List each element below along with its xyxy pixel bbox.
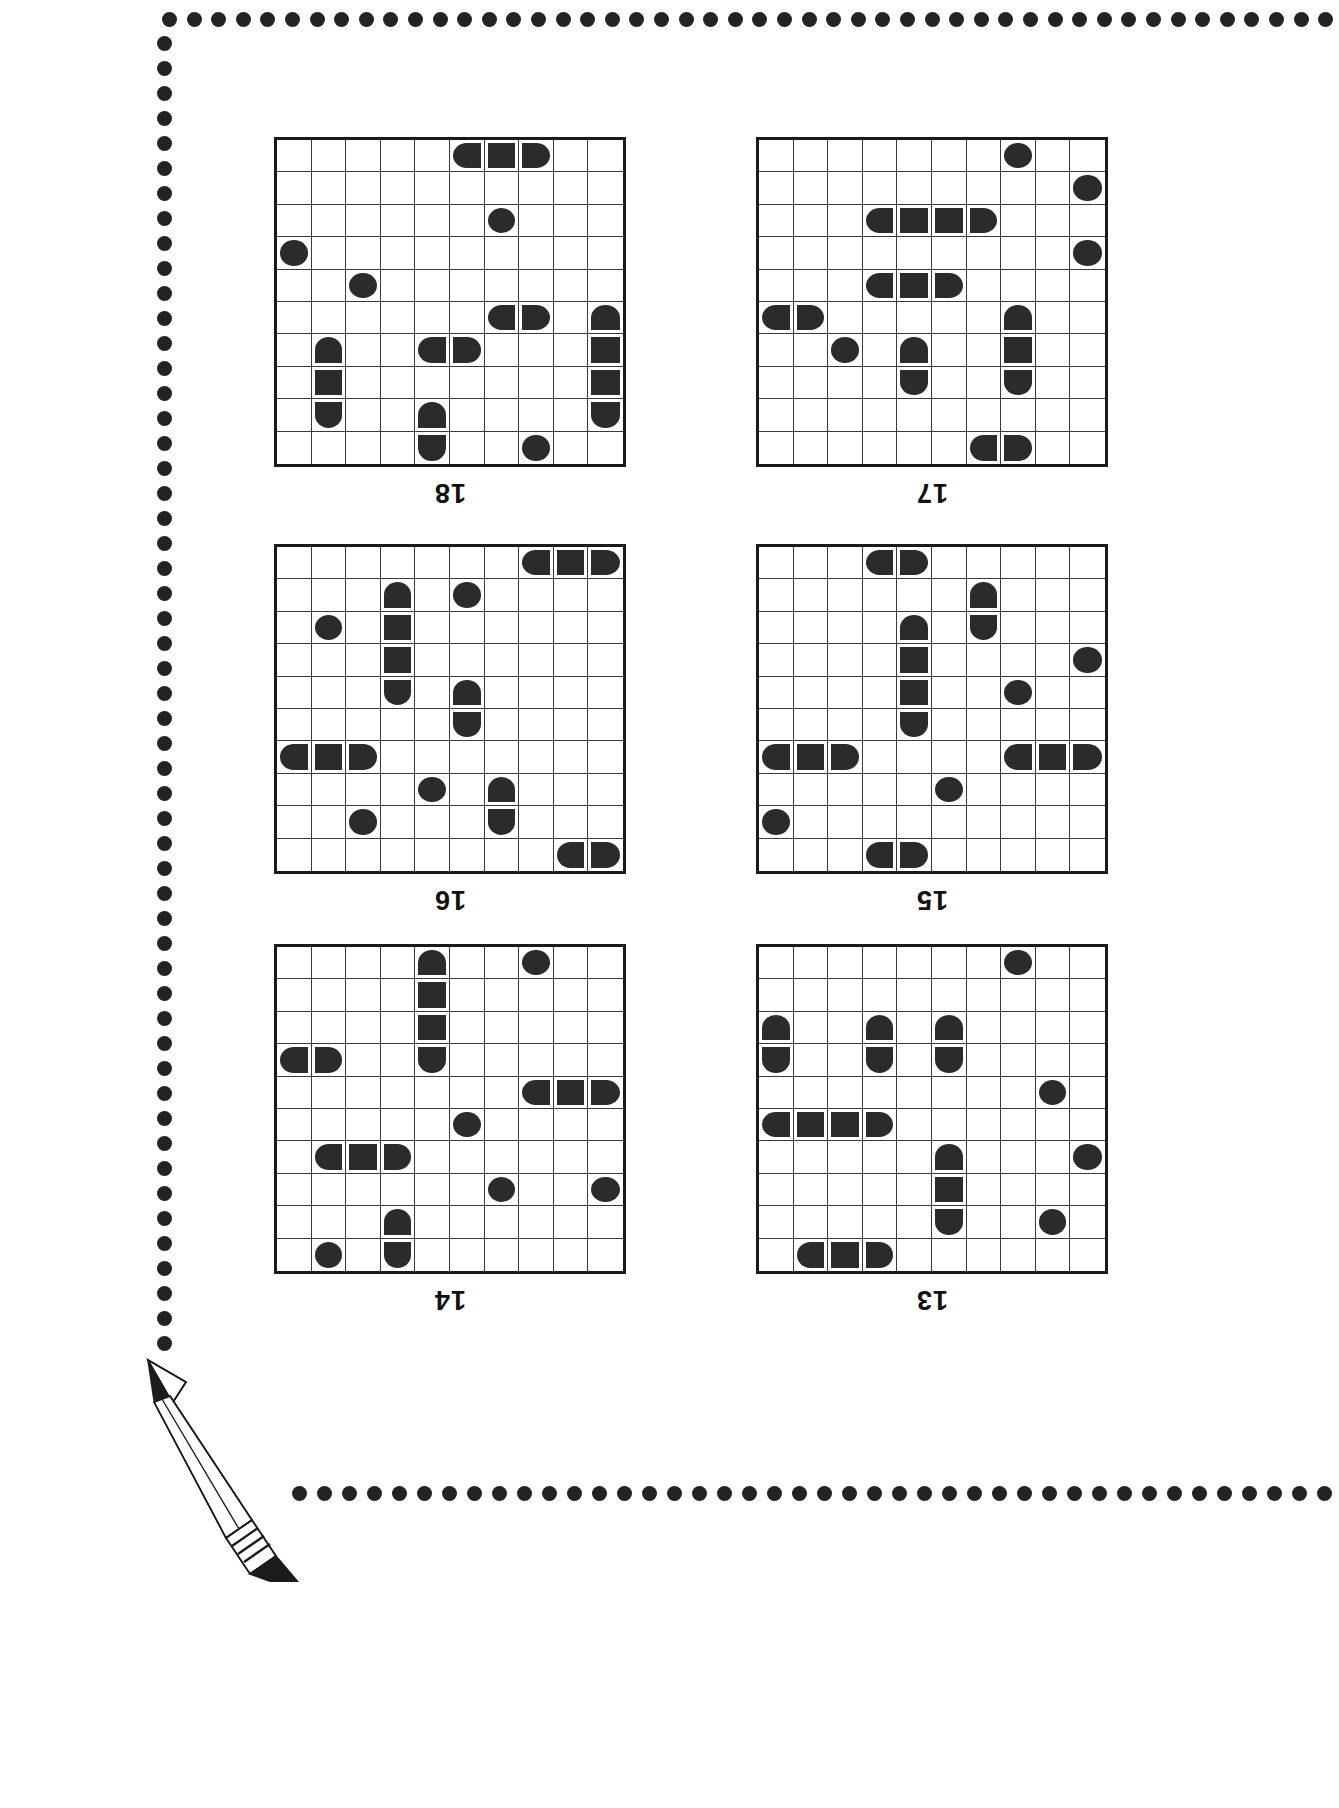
grid-cell[interactable] (1070, 367, 1105, 399)
grid-cell[interactable] (828, 1206, 863, 1238)
grid-cell[interactable] (554, 205, 589, 237)
grid-cell[interactable] (450, 1239, 485, 1271)
grid-cell[interactable] (828, 205, 863, 237)
grid-cell[interactable] (1001, 1109, 1036, 1141)
grid-cell[interactable] (588, 947, 623, 979)
grid-cell[interactable] (828, 979, 863, 1011)
grid-cell[interactable] (277, 1174, 312, 1206)
grid-cell[interactable] (346, 1077, 381, 1109)
grid-cell[interactable] (932, 579, 967, 611)
grid-cell[interactable] (277, 612, 312, 644)
grid-cell[interactable] (897, 1012, 932, 1044)
grid-cell[interactable] (932, 1012, 967, 1044)
grid-cell[interactable] (828, 709, 863, 741)
grid-cell[interactable] (415, 1239, 450, 1271)
grid-cell[interactable] (932, 334, 967, 366)
grid-cell[interactable] (863, 979, 898, 1011)
grid-cell[interactable] (381, 172, 416, 204)
grid-cell[interactable] (759, 1141, 794, 1173)
grid-cell[interactable] (932, 1206, 967, 1238)
grid-cell[interactable] (415, 806, 450, 838)
grid-cell[interactable] (450, 644, 485, 676)
grid-cell[interactable] (554, 1206, 589, 1238)
grid-cell[interactable] (346, 1109, 381, 1141)
grid-cell[interactable] (485, 432, 520, 464)
grid-cell[interactable] (1036, 612, 1071, 644)
grid-cell[interactable] (863, 644, 898, 676)
grid-cell[interactable] (519, 1109, 554, 1141)
grid-cell[interactable] (485, 677, 520, 709)
grid-cell[interactable] (828, 774, 863, 806)
grid-cell[interactable] (932, 839, 967, 871)
grid-cell[interactable] (759, 205, 794, 237)
grid-cell[interactable] (346, 947, 381, 979)
grid-cell[interactable] (277, 947, 312, 979)
grid-cell[interactable] (485, 1077, 520, 1109)
grid-cell[interactable] (519, 1141, 554, 1173)
grid-cell[interactable] (554, 979, 589, 1011)
grid-cell[interactable] (554, 1109, 589, 1141)
grid-cell[interactable] (554, 644, 589, 676)
grid-cell[interactable] (485, 1239, 520, 1271)
grid-cell[interactable] (1001, 741, 1036, 773)
grid-cell[interactable] (1036, 1044, 1071, 1076)
grid-cell[interactable] (519, 774, 554, 806)
grid-cell[interactable] (277, 547, 312, 579)
grid-cell[interactable] (1070, 140, 1105, 172)
grid-cell[interactable] (519, 709, 554, 741)
grid-cell[interactable] (277, 644, 312, 676)
grid-cell[interactable] (1070, 270, 1105, 302)
grid-cell[interactable] (967, 205, 1002, 237)
grid-cell[interactable] (828, 839, 863, 871)
grid-cell[interactable] (312, 1206, 347, 1238)
grid-cell[interactable] (554, 709, 589, 741)
grid-cell[interactable] (863, 709, 898, 741)
grid-cell[interactable] (897, 432, 932, 464)
grid-cell[interactable] (828, 1239, 863, 1271)
grid-cell[interactable] (450, 399, 485, 431)
grid-cell[interactable] (759, 237, 794, 269)
grid-cell[interactable] (312, 806, 347, 838)
grid-cell[interactable] (1070, 806, 1105, 838)
grid-cell[interactable] (588, 644, 623, 676)
grid-cell[interactable] (554, 1239, 589, 1271)
grid-cell[interactable] (381, 774, 416, 806)
grid-cell[interactable] (346, 1012, 381, 1044)
grid-cell[interactable] (381, 612, 416, 644)
grid-cell[interactable] (759, 806, 794, 838)
grid-cell[interactable] (794, 399, 829, 431)
puzzle-14-board[interactable] (274, 944, 626, 1274)
grid-cell[interactable] (759, 547, 794, 579)
grid-cell[interactable] (450, 1012, 485, 1044)
grid-cell[interactable] (415, 839, 450, 871)
grid-cell[interactable] (277, 677, 312, 709)
grid-cell[interactable] (312, 579, 347, 611)
grid-cell[interactable] (312, 1141, 347, 1173)
grid-cell[interactable] (381, 432, 416, 464)
grid-cell[interactable] (588, 1077, 623, 1109)
grid-cell[interactable] (415, 334, 450, 366)
grid-cell[interactable] (828, 172, 863, 204)
grid-cell[interactable] (897, 270, 932, 302)
grid-cell[interactable] (381, 677, 416, 709)
grid-cell[interactable] (1070, 237, 1105, 269)
grid-cell[interactable] (346, 979, 381, 1011)
grid-cell[interactable] (588, 1174, 623, 1206)
grid-cell[interactable] (967, 432, 1002, 464)
grid-cell[interactable] (415, 302, 450, 334)
grid-cell[interactable] (1001, 432, 1036, 464)
grid-cell[interactable] (1070, 579, 1105, 611)
grid-cell[interactable] (450, 547, 485, 579)
grid-cell[interactable] (554, 947, 589, 979)
grid-cell[interactable] (1036, 1141, 1071, 1173)
grid-cell[interactable] (554, 774, 589, 806)
grid-cell[interactable] (1070, 979, 1105, 1011)
grid-cell[interactable] (1070, 1012, 1105, 1044)
grid-cell[interactable] (828, 806, 863, 838)
grid-cell[interactable] (554, 839, 589, 871)
grid-cell[interactable] (1036, 774, 1071, 806)
grid-cell[interactable] (1036, 806, 1071, 838)
grid-cell[interactable] (415, 741, 450, 773)
grid-cell[interactable] (828, 677, 863, 709)
grid-cell[interactable] (932, 947, 967, 979)
